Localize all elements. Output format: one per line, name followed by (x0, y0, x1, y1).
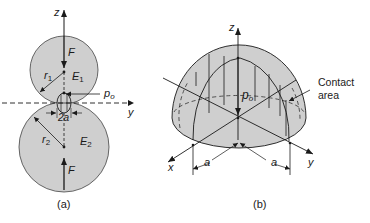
x-label-b: x (167, 161, 174, 173)
contact-width-label: 2a (57, 112, 70, 123)
y-label-a: y (127, 106, 135, 118)
half-width-label-left: a (204, 156, 210, 168)
z-label-a: z (53, 6, 60, 18)
panel-b: z x y po a a Contact area (b) (163, 21, 357, 210)
half-width-label-right: a (271, 156, 277, 168)
hertz-contact-diagram: z y F F r1 r2 E1 E2 po 2a (a) (0, 0, 370, 223)
z-label-b: z (228, 21, 235, 33)
contact-area-label: Contact area (318, 76, 357, 101)
y-label-b: y (307, 156, 315, 168)
panel-a: z y F F r1 r2 E1 E2 po 2a (a) (2, 6, 135, 210)
caption-a: (a) (57, 198, 70, 210)
pressure-label-a: po (103, 87, 115, 101)
caption-b: (b) (253, 198, 266, 210)
